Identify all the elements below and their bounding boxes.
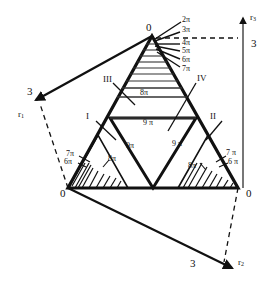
ternary-diagram-figure: 0 0 0 2π 3π 4π 5π 6π 7π 8π 9 π 7π 6π 8π … bbox=[0, 0, 272, 291]
region-label-III: III bbox=[103, 75, 112, 84]
contour-label-left-6pi: 6π bbox=[64, 158, 72, 166]
axis-r2 bbox=[68, 188, 238, 268]
vertex-label-top: 0 bbox=[146, 22, 152, 33]
contour-label-7pi: 7π bbox=[182, 65, 190, 73]
axis-tick-r2: 3 bbox=[190, 258, 196, 269]
contour-label-8pi-upper: 8π bbox=[140, 89, 148, 97]
contour-label-3pi: 3π bbox=[182, 26, 190, 34]
region-label-IV: IV bbox=[197, 74, 207, 83]
region-label-I: I bbox=[86, 112, 89, 121]
contour-label-9pi-upper: 9 π bbox=[143, 119, 153, 127]
leader-lines-regions bbox=[96, 83, 222, 140]
contour-label-right-8pi: 8π bbox=[188, 162, 196, 170]
diagram-canvas bbox=[0, 0, 272, 291]
axis-label-r3: r3 bbox=[250, 13, 256, 22]
axis-r1 bbox=[36, 36, 152, 188]
contour-label-left-9pi: 9π bbox=[126, 142, 134, 150]
contour-label-2pi: 2π bbox=[182, 16, 190, 24]
leader-lines-top bbox=[155, 22, 181, 67]
contour-label-left-8pi: 8π bbox=[108, 155, 116, 163]
hatch-bottom-left bbox=[68, 135, 128, 188]
contour-label-right-7pi: 7 π bbox=[226, 149, 236, 157]
axis-label-r2-sub: 2 bbox=[241, 261, 244, 267]
contour-label-right-6pi: 6 π bbox=[228, 158, 238, 166]
axis-label-r3-sub: 3 bbox=[253, 16, 256, 22]
axis-tick-r3: 3 bbox=[251, 38, 257, 49]
contour-label-right-9pi: 9 π bbox=[172, 140, 182, 148]
vertex-label-bottom-right: 0 bbox=[246, 188, 252, 199]
region-label-II: II bbox=[210, 112, 216, 121]
axis-tick-r1: 3 bbox=[27, 86, 33, 97]
contour-label-6pi: 6π bbox=[182, 56, 190, 64]
axis-label-r2: r2 bbox=[238, 258, 244, 267]
axis-label-r1-sub: 1 bbox=[21, 113, 24, 119]
vertex-label-bottom-left: 0 bbox=[60, 188, 66, 199]
contour-label-5pi: 5π bbox=[182, 47, 190, 55]
axis-label-r1: r1 bbox=[18, 110, 24, 119]
leader-lines-corners bbox=[78, 156, 228, 170]
